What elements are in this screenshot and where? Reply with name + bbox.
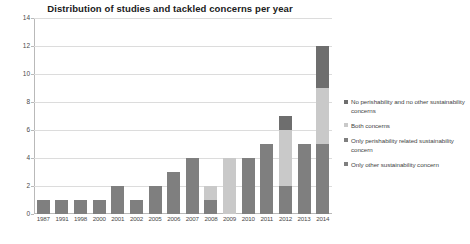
bar-column[interactable] (53, 18, 71, 214)
legend-swatch-icon (344, 123, 348, 127)
bar-segment[interactable] (279, 130, 292, 186)
x-axis-tick-label: 2006 (165, 216, 183, 223)
x-axis-tick-label: 2014 (314, 216, 332, 223)
y-axis-tick-mark (31, 214, 34, 215)
bar-segment[interactable] (204, 200, 217, 214)
bar-segment[interactable] (55, 200, 68, 214)
y-axis-tick-label: 4 (8, 155, 30, 162)
bar-column[interactable] (221, 18, 239, 214)
bar-segment[interactable] (298, 144, 311, 214)
y-axis-tick-label: 10 (8, 71, 30, 78)
chart-container: Distribution of studies and tackled conc… (0, 0, 470, 244)
legend-item[interactable]: Both concerns (344, 122, 468, 131)
bar-stack[interactable] (74, 200, 87, 214)
x-axis-tick-label: 2009 (221, 216, 239, 223)
bar-column[interactable] (72, 18, 90, 214)
legend-swatch-icon (344, 100, 348, 104)
bar-column[interactable] (165, 18, 183, 214)
bar-segment[interactable] (223, 158, 236, 214)
legend-label: No perishability and no other sustainabi… (351, 98, 468, 116)
bar-stack[interactable] (149, 186, 162, 214)
legend-swatch-icon (344, 162, 348, 166)
bar-column[interactable] (276, 18, 294, 214)
chart-title: Distribution of studies and tackled conc… (0, 3, 340, 14)
x-axis-tick-label: 2012 (276, 216, 294, 223)
chart-legend: No perishability and no other sustainabi… (344, 98, 468, 176)
y-axis-tick-label: 14 (8, 15, 30, 22)
bar-segment[interactable] (149, 186, 162, 214)
bar-segment[interactable] (316, 88, 329, 144)
bar-column[interactable] (90, 18, 108, 214)
bar-segment[interactable] (167, 172, 180, 214)
bar-stack[interactable] (279, 116, 292, 214)
bar-segment[interactable] (93, 200, 106, 214)
legend-item[interactable]: Only perishability related sustainabilit… (344, 137, 468, 155)
bar-stack[interactable] (93, 200, 106, 214)
bar-stack[interactable] (242, 158, 255, 214)
legend-label: Only other sustainability concern (351, 161, 439, 170)
y-axis-tick-label: 0 (8, 211, 30, 218)
bar-segment[interactable] (260, 144, 273, 214)
bar-stack[interactable] (223, 158, 236, 214)
legend-label: Only perishability related sustainabilit… (351, 137, 468, 155)
bar-segment[interactable] (316, 46, 329, 88)
legend-item[interactable]: No perishability and no other sustainabi… (344, 98, 468, 116)
legend-item[interactable]: Only other sustainability concern (344, 161, 468, 170)
bar-column[interactable] (109, 18, 127, 214)
x-axis-tick-label: 2000 (90, 216, 108, 223)
y-axis-tick-label: 12 (8, 43, 30, 50)
x-axis-tick-label: 2013 (295, 216, 313, 223)
y-axis-tick-label: 2 (8, 183, 30, 190)
bar-stack[interactable] (260, 144, 273, 214)
bar-segment[interactable] (242, 158, 255, 214)
x-axis-tick-label: 2002 (127, 216, 145, 223)
plot-area: 02468101214 (34, 18, 332, 214)
x-axis-tick-label: 2005 (146, 216, 164, 223)
bar-segment[interactable] (37, 200, 50, 214)
bar-column[interactable] (202, 18, 220, 214)
bar-segment[interactable] (279, 186, 292, 214)
bar-stack[interactable] (37, 200, 50, 214)
bar-column[interactable] (127, 18, 145, 214)
x-axis-tick-label: 1998 (72, 216, 90, 223)
legend-swatch-icon (344, 138, 348, 142)
bar-stack[interactable] (167, 172, 180, 214)
bar-segment[interactable] (316, 144, 329, 214)
x-axis-tick-label: 2011 (258, 216, 276, 223)
y-axis-tick-label: 6 (8, 127, 30, 134)
x-axis-tick-label: 1991 (53, 216, 71, 223)
bar-column[interactable] (295, 18, 313, 214)
x-axis-tick-label: 1987 (34, 216, 52, 223)
bar-stack[interactable] (186, 158, 199, 214)
bar-stack[interactable] (111, 186, 124, 214)
bar-column[interactable] (146, 18, 164, 214)
bar-segment[interactable] (74, 200, 87, 214)
x-axis-tick-label: 2007 (183, 216, 201, 223)
x-axis-labels: 1987199119982000200120022005200620072008… (34, 216, 332, 230)
bar-segment[interactable] (130, 200, 143, 214)
bar-stack[interactable] (298, 144, 311, 214)
x-axis-tick-label: 2008 (202, 216, 220, 223)
bar-column[interactable] (239, 18, 257, 214)
legend-label: Both concerns (351, 122, 390, 131)
x-axis-tick-label: 2010 (239, 216, 257, 223)
bar-stack[interactable] (204, 186, 217, 214)
bar-segment[interactable] (111, 186, 124, 214)
bar-column[interactable] (183, 18, 201, 214)
bar-segment[interactable] (186, 158, 199, 214)
bar-stack[interactable] (55, 200, 68, 214)
bar-stack[interactable] (316, 46, 329, 214)
bar-segment[interactable] (279, 116, 292, 130)
bars-layer (34, 18, 332, 214)
y-axis-tick-label: 8 (8, 99, 30, 106)
bar-stack[interactable] (130, 200, 143, 214)
x-axis-tick-label: 2001 (109, 216, 127, 223)
bar-column[interactable] (34, 18, 52, 214)
bar-column[interactable] (258, 18, 276, 214)
bar-segment[interactable] (204, 186, 217, 200)
bar-column[interactable] (314, 18, 332, 214)
